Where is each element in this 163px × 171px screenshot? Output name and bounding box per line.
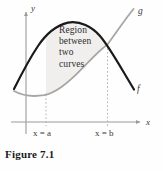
curve-label-g: g xyxy=(138,6,143,16)
x-axis-label: x xyxy=(145,117,150,127)
y-axis-label: y xyxy=(30,3,35,13)
tick-label-x-equals-b: x = b xyxy=(95,128,114,138)
figure-caption: Figure 7.1 xyxy=(5,148,54,160)
region-annotation: Region between two curves xyxy=(59,25,91,70)
curve-label-f: f xyxy=(137,84,141,94)
tick-label-x-equals-a: x = a xyxy=(33,128,51,138)
figure-container: y x g f x = a x = b Region between two c… xyxy=(0,0,163,171)
